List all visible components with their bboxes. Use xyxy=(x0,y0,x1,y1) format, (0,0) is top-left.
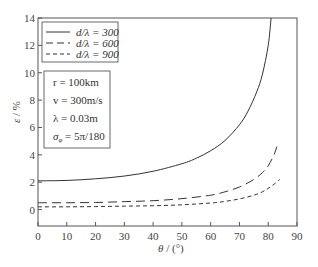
x-tick-label: 0 xyxy=(35,230,41,242)
line-chart: 010203040506070809002468101214 d/λ = 300… xyxy=(0,0,318,267)
legend-label-900: d/λ = 900 xyxy=(76,48,119,60)
param-v: v = 300m/s xyxy=(53,94,103,106)
x-axis-label: θ / (°) xyxy=(158,242,184,255)
param-r: r = 100km xyxy=(53,76,99,88)
y-tick-label: 14 xyxy=(24,12,36,24)
series-line-1 xyxy=(38,147,277,203)
y-tick-label: 2 xyxy=(30,176,36,188)
x-tick-label: 70 xyxy=(234,230,246,242)
x-tick-label: 90 xyxy=(292,230,304,242)
x-tick-label: 50 xyxy=(176,230,188,242)
y-tick-label: 6 xyxy=(30,121,36,133)
legend: d/λ = 300 d/λ = 600 d/λ = 900 xyxy=(42,22,119,62)
y-tick-label: 0 xyxy=(30,204,36,216)
y-tick-label: 8 xyxy=(30,94,36,106)
x-tick-label: 60 xyxy=(205,230,217,242)
y-tick-label: 4 xyxy=(30,149,36,161)
x-tick-label: 40 xyxy=(148,230,160,242)
param-lambda: λ = 0.03m xyxy=(53,112,98,124)
x-tick-label: 30 xyxy=(119,230,131,242)
x-tick-label: 10 xyxy=(61,230,73,242)
y-axis-label: ε / % xyxy=(10,101,22,123)
y-tick-label: 10 xyxy=(24,67,36,79)
x-tick-label: 20 xyxy=(90,230,102,242)
x-tick-label: 80 xyxy=(263,230,275,242)
y-tick-label: 12 xyxy=(24,39,35,51)
parameter-box: r = 100km v = 300m/s λ = 0.03m σφ = 5π/1… xyxy=(44,71,110,148)
